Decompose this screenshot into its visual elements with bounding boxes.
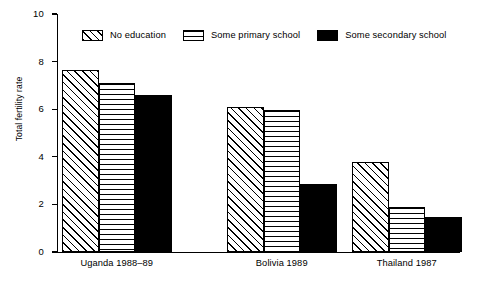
legend-entry-no-education: No education bbox=[82, 30, 166, 41]
legend-entry-some-primary-school: Some primary school bbox=[183, 30, 300, 41]
bar bbox=[300, 184, 337, 252]
legend-entry-some-secondary-school: Some secondary school bbox=[317, 30, 446, 41]
y-axis-tick bbox=[52, 204, 57, 205]
y-axis-tick-label: 6 bbox=[0, 104, 44, 114]
y-axis-tick-label: 8 bbox=[0, 57, 44, 67]
bar bbox=[99, 83, 136, 252]
y-axis-tick bbox=[52, 251, 57, 252]
bar bbox=[425, 217, 462, 252]
chart-legend: No education Some primary school Some se… bbox=[82, 27, 464, 43]
bar bbox=[62, 70, 99, 252]
y-axis-tick bbox=[52, 61, 57, 62]
y-axis-tick-label: 2 bbox=[0, 199, 44, 209]
bar bbox=[264, 110, 301, 252]
legend-swatch-solid-black-icon bbox=[317, 30, 338, 41]
x-axis-category-label: Thailand 1987 bbox=[330, 258, 484, 268]
fertility-bar-chart: No education Some primary school Some se… bbox=[0, 0, 490, 281]
bar bbox=[227, 107, 264, 252]
y-axis-line bbox=[57, 14, 58, 252]
y-axis-tick bbox=[52, 156, 57, 157]
y-axis-tick-label: 10 bbox=[0, 9, 44, 19]
bar bbox=[352, 162, 389, 252]
y-axis-tick-label: 0 bbox=[0, 247, 44, 257]
legend-label-some-primary-school: Some primary school bbox=[211, 30, 300, 40]
bar bbox=[389, 207, 426, 252]
y-axis-tick bbox=[52, 109, 57, 110]
bar bbox=[135, 95, 172, 252]
y-axis-tick-label: 4 bbox=[0, 152, 44, 162]
y-axis-tick bbox=[52, 13, 57, 14]
legend-label-no-education: No education bbox=[110, 30, 166, 40]
legend-swatch-diagonal-hatch-icon bbox=[82, 30, 103, 41]
x-axis-category-label: Uganda 1988–89 bbox=[40, 258, 194, 268]
legend-label-some-secondary-school: Some secondary school bbox=[345, 30, 446, 40]
legend-swatch-horizontal-lines-icon bbox=[183, 30, 204, 41]
